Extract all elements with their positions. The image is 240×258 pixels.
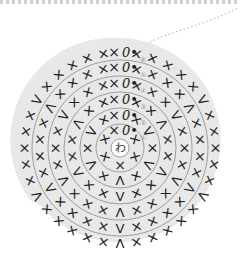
single-crochet-symbol: × bbox=[114, 158, 126, 174]
single-crochet-symbol: × bbox=[47, 142, 63, 154]
single-crochet-symbol: × bbox=[108, 107, 120, 123]
single-crochet-symbol: × bbox=[192, 133, 209, 146]
single-crochet-symbol: × bbox=[31, 133, 48, 146]
chain-slip-marker: 0• bbox=[122, 108, 138, 123]
center-label: わ bbox=[115, 142, 126, 155]
single-crochet-symbol: × bbox=[130, 234, 144, 252]
single-crochet-symbol: × bbox=[31, 150, 48, 163]
increase-stitch-symbol: V bbox=[115, 205, 124, 220]
single-crochet-symbol: × bbox=[192, 150, 209, 163]
round-number-label: ⑥ bbox=[140, 56, 146, 64]
single-crochet-symbol: × bbox=[79, 142, 95, 154]
round-number-label: ④ bbox=[140, 87, 146, 95]
increase-stitch-symbol: V bbox=[115, 173, 124, 188]
chain-slip-marker: 0• bbox=[122, 76, 138, 91]
single-crochet-symbol: × bbox=[108, 122, 120, 138]
single-crochet-symbol: × bbox=[208, 142, 224, 154]
round-number-label: ⑤ bbox=[140, 71, 146, 79]
chain-slip-marker: 0• bbox=[122, 60, 138, 75]
single-crochet-symbol: × bbox=[108, 91, 120, 107]
single-crochet-symbol: × bbox=[108, 44, 120, 60]
magic-ring: わ bbox=[111, 139, 129, 157]
chain-slip-marker: 0• bbox=[122, 123, 138, 138]
crochet-chart: わ ××××××V×V×V×V×V×××Λ××Λ××Λ××Λ××Λ×××××V×… bbox=[0, 0, 240, 258]
increase-stitch-symbol: V bbox=[115, 236, 124, 251]
increase-stitch-symbol: Λ bbox=[115, 221, 124, 236]
increase-stitch-symbol: Λ bbox=[115, 189, 124, 204]
single-crochet-symbol: × bbox=[16, 142, 32, 154]
yarn-tail-dotted-line bbox=[150, 8, 238, 42]
single-crochet-symbol: × bbox=[108, 75, 120, 91]
single-crochet-symbol: × bbox=[177, 142, 193, 154]
single-crochet-symbol: × bbox=[206, 124, 224, 138]
round-number-label: ③ bbox=[140, 103, 146, 111]
single-crochet-symbol: × bbox=[108, 59, 120, 75]
chain-slip-marker: 0• bbox=[122, 45, 138, 60]
chain-slip-marker: 0• bbox=[122, 92, 138, 107]
round-number-label: ① bbox=[140, 134, 146, 142]
round-number-label: ② bbox=[140, 119, 146, 127]
single-crochet-symbol: × bbox=[145, 142, 161, 154]
